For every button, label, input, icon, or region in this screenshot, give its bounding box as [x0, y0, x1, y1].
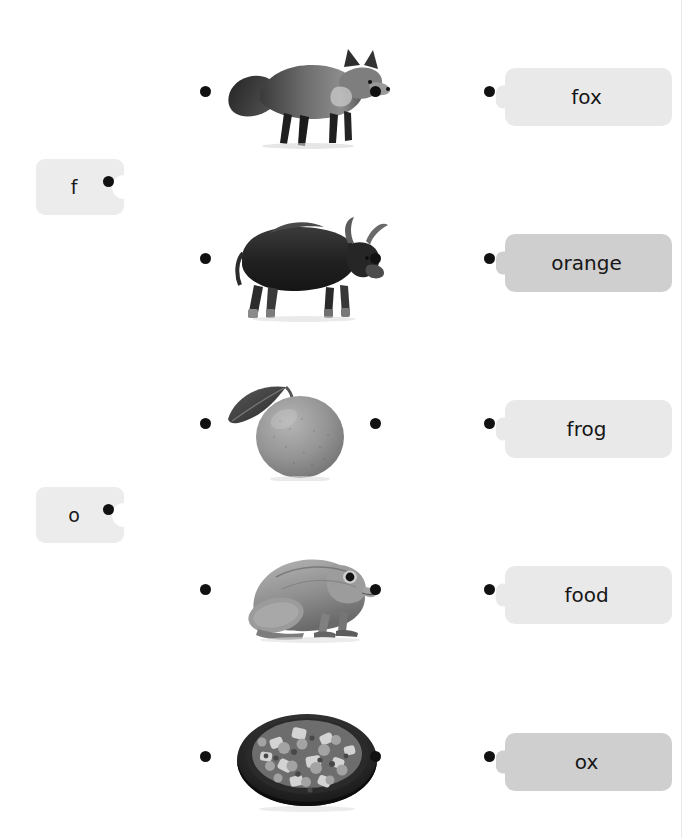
picture-right-dot-ox[interactable] — [370, 253, 381, 264]
word-tile-fox[interactable]: fox — [505, 68, 672, 126]
picture-left-dot-frog[interactable] — [200, 584, 211, 595]
word-tile-tab — [496, 751, 515, 774]
word-tile-label: fox — [571, 87, 602, 107]
word-connector-dot-frog[interactable] — [484, 418, 495, 429]
word-tile-label: frog — [567, 419, 607, 439]
frog-photo — [236, 547, 384, 643]
word-tile-food[interactable]: food — [505, 566, 672, 624]
word-tile-frog[interactable]: frog — [505, 400, 672, 458]
picture-right-dot-orange[interactable] — [370, 418, 381, 429]
ox-photo — [224, 213, 392, 323]
letter-tile-f[interactable]: f — [36, 159, 124, 215]
exercise-page: fo — [0, 0, 693, 838]
page-edge-rule — [681, 0, 682, 838]
letter-connector-dot-o[interactable] — [103, 504, 114, 515]
word-tile-tab — [496, 418, 515, 441]
word-tile-ox[interactable]: ox — [505, 733, 672, 791]
word-tile-label: food — [564, 585, 608, 605]
letter-connector-dot-f[interactable] — [103, 176, 114, 187]
word-tile-tab — [496, 252, 515, 275]
picture-left-dot-fox[interactable] — [200, 86, 211, 97]
word-connector-dot-orange[interactable] — [484, 253, 495, 264]
word-connector-dot-ox[interactable] — [484, 751, 495, 762]
picture-left-dot-bowl-of-food[interactable] — [200, 751, 211, 762]
letter-tile-label: f — [71, 178, 78, 197]
fox-photo — [224, 43, 392, 149]
letter-tile-notch — [112, 503, 136, 527]
picture-right-dot-bowl-of-food[interactable] — [370, 751, 381, 762]
word-tile-label: orange — [551, 253, 621, 273]
word-connector-dot-fox[interactable] — [484, 86, 495, 97]
picture-right-dot-frog[interactable] — [370, 584, 381, 595]
letter-tile-notch — [112, 175, 136, 199]
picture-left-dot-ox[interactable] — [200, 253, 211, 264]
word-tile-tab — [496, 86, 515, 109]
word-tile-orange[interactable]: orange — [505, 234, 672, 292]
food-photo — [232, 704, 382, 812]
picture-right-dot-fox[interactable] — [370, 86, 381, 97]
orange-photo — [224, 375, 362, 481]
word-tile-tab — [496, 584, 515, 607]
letter-tile-label: o — [68, 506, 80, 525]
word-tile-label: ox — [575, 752, 598, 772]
letter-tile-o[interactable]: o — [36, 487, 124, 543]
word-connector-dot-food[interactable] — [484, 584, 495, 595]
picture-left-dot-orange[interactable] — [200, 418, 211, 429]
